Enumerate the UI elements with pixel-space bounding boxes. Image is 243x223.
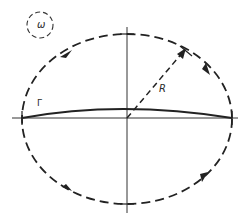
arrow-bottom-left-icon — [62, 184, 72, 191]
omega-label: ω — [37, 19, 45, 30]
radius-line — [127, 46, 192, 118]
radius-label: R — [159, 83, 166, 94]
contour-diagram: ω R Γ — [0, 0, 243, 223]
gamma-label: Γ — [37, 98, 42, 108]
arrow-top-left-icon — [60, 50, 72, 58]
arrow-bottom-right-icon — [200, 172, 208, 182]
